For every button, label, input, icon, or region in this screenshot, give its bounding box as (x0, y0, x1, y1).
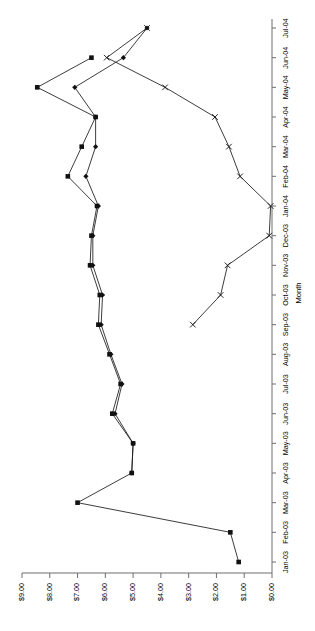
month-tick-label: Sep-03 (281, 313, 290, 336)
data-point-marker-square (236, 560, 241, 565)
dollar-tick-label: $6.00 (100, 583, 109, 601)
chart-figure: Jan-03Feb-03Mar-03Apr-03May-03Jun-03Jul-… (0, 0, 315, 631)
data-point-marker-square (89, 55, 94, 60)
month-tick-label: Jun-03 (281, 403, 290, 425)
dollar-tick-label: $1.00 (239, 583, 248, 601)
data-point-marker-square (66, 174, 71, 179)
dollar-tick-label: $2.00 (211, 583, 220, 601)
month-tick-label: Apr-04 (281, 106, 290, 128)
dollar-tick-label: $4.00 (156, 583, 165, 601)
month-tick-label: Jan-04 (281, 195, 290, 217)
month-tick-label: Jun-04 (281, 47, 290, 69)
month-tick-label: Jan-03 (281, 551, 290, 573)
dollar-tick-label: $3.00 (184, 583, 193, 601)
dollar-tick-label: $7.00 (72, 583, 81, 601)
month-tick-label: Feb-04 (281, 165, 290, 188)
month-tick-label: Mar-04 (281, 135, 290, 158)
data-point-marker-square (228, 530, 233, 535)
month-tick-label: Oct-03 (281, 284, 290, 306)
month-tick-label: Feb-03 (281, 521, 290, 544)
month-tick-label: Aug-03 (281, 343, 290, 366)
month-tick-label: Dec-03 (281, 224, 290, 247)
x-axis-title: Month (294, 282, 303, 303)
dollar-tick-label: $8.00 (45, 583, 54, 601)
data-point-marker-square (75, 500, 80, 505)
dollar-tick-label: $9.00 (17, 583, 26, 601)
month-tick-label: Jul-04 (281, 18, 290, 38)
dollar-tick-label: $5.00 (128, 583, 137, 601)
month-tick-label: Mar-03 (281, 491, 290, 514)
dollar-tick-label: $0.00 (267, 583, 276, 601)
data-point-marker-square (79, 144, 84, 149)
month-tick-label: Nov-03 (281, 254, 290, 277)
month-tick-label: Jul-03 (281, 374, 290, 394)
month-tick-label: May-04 (281, 75, 290, 99)
month-tick-label: May-03 (281, 431, 290, 455)
line-chart: Jan-03Feb-03Mar-03Apr-03May-03Jun-03Jul-… (0, 0, 315, 631)
chart-background (0, 0, 315, 631)
data-point-marker-square (35, 85, 40, 90)
month-tick-label: Apr-03 (281, 462, 290, 484)
